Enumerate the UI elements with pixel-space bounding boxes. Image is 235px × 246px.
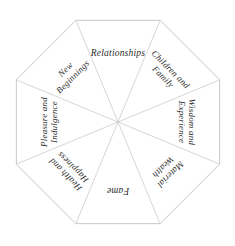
segment-label-line: Wisdom and [187, 99, 197, 146]
octagon-wheel-diagram: RelationshipsChildren andFamilyWisdom an… [0, 0, 235, 246]
segment-label-line: Indulgence [49, 101, 59, 144]
segment-label-line: Pleasure and [39, 97, 49, 148]
segment-label-line: Fame [107, 186, 130, 196]
segment-label-pleasure-and-indulgence: Pleasure andIndulgence [39, 97, 60, 148]
segment-label-fame: Fame [107, 186, 130, 196]
segment-label-relationships: Relationships [90, 48, 145, 58]
segment-label-line: Experience [177, 100, 187, 143]
segment-label-line: Relationships [90, 48, 145, 58]
wheel-svg-canvas: RelationshipsChildren andFamilyWisdom an… [0, 0, 235, 246]
segment-label-wisdom-and-experience: Wisdom andExperience [177, 99, 198, 146]
